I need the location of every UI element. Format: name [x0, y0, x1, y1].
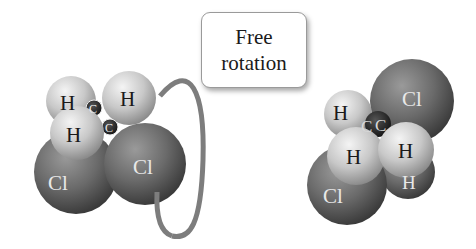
right-molecule: Cl H C C H H H Cl: [307, 59, 454, 225]
free-rotation-label: Free rotation: [201, 12, 307, 88]
left-molecule: H H C C H Cl Cl: [34, 71, 203, 237]
label-h-top-left: H: [60, 91, 75, 115]
label-h-top-left: H: [333, 101, 348, 125]
label-c2: C: [375, 116, 386, 135]
label-h-top-right: H: [120, 87, 135, 111]
label-line-2: rotation: [221, 50, 286, 76]
label-c1: C: [89, 102, 97, 116]
label-cl-bottom: Cl: [323, 184, 343, 208]
label-h-bottom: H: [402, 172, 416, 193]
label-c1: C: [361, 117, 372, 136]
label-cl-right: Cl: [133, 155, 153, 179]
label-h-middle: H: [66, 123, 81, 147]
label-cl-top: Cl: [402, 87, 422, 111]
label-line-1: Free: [235, 24, 272, 50]
label-cl-left: Cl: [48, 171, 68, 195]
label-h-middle-right: H: [398, 139, 413, 163]
label-c2: C: [105, 121, 113, 135]
label-h-middle-left: H: [346, 145, 361, 169]
